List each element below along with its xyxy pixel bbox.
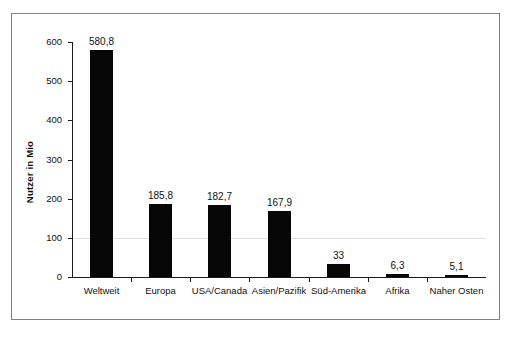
y-tick-mark-0 — [68, 277, 72, 278]
y-tick-label-300: 300 — [36, 155, 62, 165]
plot-area: Nutzer in Mio 600 500 400 300 200 100 0 — [0, 0, 513, 337]
y-tick-500: 500 — [0, 76, 68, 86]
bar-value-weltweit: 580,8 — [74, 36, 129, 47]
y-tick-label-100: 100 — [36, 233, 62, 243]
x-label-sued-amerika: Süd-Amerika — [309, 285, 368, 296]
bar-asien-pazifik — [268, 211, 291, 277]
y-tick-mark-400 — [68, 120, 72, 121]
x-tick-mark-2 — [190, 278, 191, 282]
y-tick-300: 300 — [0, 155, 68, 165]
y-tick-100: 100 — [0, 233, 68, 243]
x-label-asien-pazifik: Asien/Pazifik — [249, 285, 309, 296]
y-tick-label-500: 500 — [36, 76, 62, 86]
y-axis-line — [72, 42, 73, 278]
y-tick-mark-500 — [68, 81, 72, 82]
bar-europa — [149, 204, 172, 277]
y-tick-mark-300 — [68, 160, 72, 161]
bar-value-asien-pazifik: 167,9 — [252, 197, 307, 208]
bar-usa-canada — [208, 205, 231, 277]
y-tick-mark-200 — [68, 199, 72, 200]
x-label-naher-osten: Naher Osten — [427, 285, 486, 296]
bar-weltweit — [90, 50, 113, 277]
y-tick-label-0: 0 — [36, 272, 62, 282]
bar-value-europa: 185,8 — [133, 190, 188, 201]
x-label-weltweit: Weltweit — [72, 285, 131, 296]
bar-value-naher-osten: 5,1 — [429, 261, 484, 272]
bar-afrika — [386, 274, 409, 277]
y-tick-label-600: 600 — [36, 37, 62, 47]
y-tick-0: 0 — [0, 272, 68, 282]
y-tick-label-400: 400 — [36, 115, 62, 125]
x-label-usa-canada: USA/Canada — [190, 285, 249, 296]
y-tick-mark-100 — [68, 238, 72, 239]
x-tick-mark-1 — [131, 278, 132, 282]
bar-value-usa-canada: 182,7 — [192, 191, 247, 202]
y-tick-600: 600 — [0, 37, 68, 47]
bar-value-sued-amerika: 33 — [311, 250, 366, 261]
y-tick-200: 200 — [0, 194, 68, 204]
bar-naher-osten — [445, 275, 468, 277]
bar-sued-amerika — [327, 264, 350, 277]
x-tick-mark-4 — [309, 278, 310, 282]
x-label-afrika: Afrika — [368, 285, 427, 296]
y-tick-400: 400 — [0, 115, 68, 125]
x-label-europa: Europa — [131, 285, 190, 296]
x-tick-mark-5 — [368, 278, 369, 282]
y-tick-label-200: 200 — [36, 194, 62, 204]
y-tick-mark-600 — [68, 42, 72, 43]
x-tick-mark-3 — [249, 278, 250, 282]
chart-figure: Nutzer in Mio 600 500 400 300 200 100 0 — [0, 0, 513, 337]
x-tick-mark-6 — [427, 278, 428, 282]
x-axis-line — [72, 277, 486, 278]
bar-value-afrika: 6,3 — [370, 260, 425, 271]
